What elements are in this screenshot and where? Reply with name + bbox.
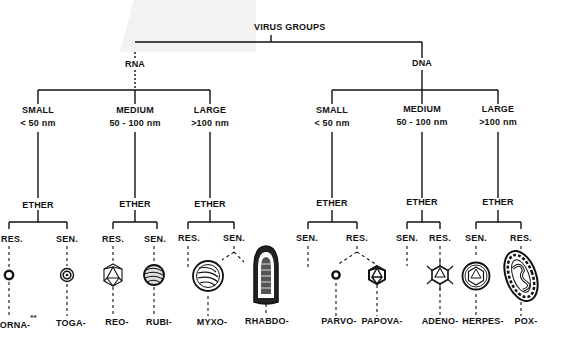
icosahedron-icon (369, 266, 385, 284)
virus-name-reo: REO- (105, 318, 128, 327)
small-ring-icon (332, 271, 339, 278)
enveloped-icosahedron-icon (463, 263, 490, 290)
virus-name-parvo: PARVO- (321, 317, 356, 326)
virus-name-papova: PAPOVA- (361, 317, 402, 326)
bullet-shape-icon (254, 246, 278, 304)
icosahedron-icon (104, 264, 122, 286)
virus-name-rhabdo: RHABDO- (245, 317, 289, 326)
virus-name-myxo: MYXO- (197, 318, 228, 327)
double-ring-icon (61, 269, 74, 282)
footnote-marker: ** (30, 313, 37, 322)
virus-icons (0, 0, 570, 338)
virus-groups-diagram: VIRUS GROUPS RNA DNA SMALL < 50 nm MEDIU… (0, 0, 570, 338)
striped-sphere-icon (144, 265, 164, 285)
virus-name-adeno: ADENO- (422, 317, 459, 326)
icosahedron-with-fibers-icon (427, 260, 453, 290)
virus-name-herpes: HERPES- (462, 317, 503, 326)
small-ring-icon (5, 271, 13, 279)
virus-name-rubi: RUBI- (146, 318, 172, 327)
virus-name: CORNA- (0, 320, 30, 330)
virus-name-corna: CORNA-** (0, 318, 37, 330)
enveloped-helical-sphere-icon (193, 261, 223, 291)
virus-name-pox: POX- (515, 317, 538, 326)
virus-name-toga: TOGA- (56, 319, 86, 328)
brick-shape-icon (498, 246, 544, 305)
